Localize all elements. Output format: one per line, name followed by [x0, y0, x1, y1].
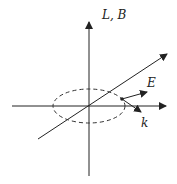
k-vector-label: k	[141, 117, 148, 129]
e-field-vector	[122, 92, 147, 99]
vertical-axis-label: L, B	[102, 9, 126, 21]
e-field-label: E	[147, 77, 156, 89]
axes-diagram	[0, 0, 177, 184]
diagram-canvas: L, B E k	[0, 0, 177, 184]
